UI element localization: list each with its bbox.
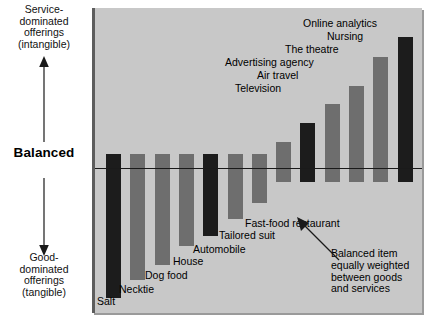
bar-label: Necktie — [119, 284, 154, 295]
axis-caption-good-dominated: Good- dominated offerings (tangible) — [0, 252, 88, 298]
callout-arrow-icon — [291, 214, 351, 266]
axis-caption-line: offerings — [0, 27, 88, 39]
bar-label: Salt — [97, 296, 115, 307]
bar — [300, 123, 315, 182]
zero-line — [95, 168, 422, 169]
axis-caption-line: (tangible) — [0, 287, 88, 299]
bar — [106, 154, 121, 298]
plot-panel: SaltNecktieDog foodHouseAutomobileTailor… — [92, 8, 422, 313]
balanced-axis-label: Balanced — [0, 145, 88, 160]
bar-label: Online analytics — [303, 18, 377, 29]
bar — [228, 154, 243, 219]
arrow-up-icon — [0, 56, 88, 142]
axis-caption-line: Good- — [0, 252, 88, 264]
bar-label: The theatre — [285, 44, 339, 55]
bar-label: Nursing — [327, 31, 363, 42]
bar — [155, 154, 170, 265]
bar — [325, 104, 340, 182]
callout-line: and services — [331, 283, 409, 295]
axis-caption-line: offerings — [0, 275, 88, 287]
bar — [130, 154, 145, 280]
bar — [276, 142, 291, 182]
bar-label: Television — [235, 83, 281, 94]
bar-label: Air travel — [257, 70, 298, 81]
bar — [252, 154, 267, 203]
arrow-down-icon — [0, 178, 88, 256]
axis-caption-line: (intangible) — [0, 39, 88, 51]
axis-caption-line: Service- — [0, 4, 88, 16]
bar — [398, 37, 413, 182]
axis-caption-service-dominated: Service- dominated offerings (intangible… — [0, 4, 88, 50]
bar-label: Automobile — [193, 244, 246, 255]
bar-label: Tailored suit — [219, 230, 275, 241]
bar — [373, 57, 388, 182]
bar-label: House — [173, 256, 203, 267]
goods-services-continuum-chart: Service- dominated offerings (intangible… — [0, 0, 427, 320]
bar-label: Dog food — [145, 270, 188, 281]
vertical-axis: Service- dominated offerings (intangible… — [0, 0, 92, 320]
bar-label: Advertising agency — [225, 57, 314, 68]
bar — [203, 154, 218, 236]
